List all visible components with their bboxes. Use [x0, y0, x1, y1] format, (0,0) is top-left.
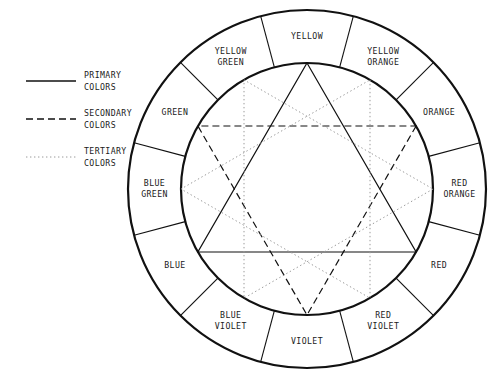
- segment-label-line-1: RED: [431, 260, 447, 270]
- segment-label-line-2: VIOLET: [367, 321, 399, 331]
- wheel-segment-red-violet[interactable]: REDVIOLET: [367, 310, 399, 330]
- segment-label-line-1: RED: [375, 310, 391, 320]
- segment-divider: [261, 311, 275, 362]
- color-wheel: YELLOWYELLOWORANGEORANGEREDORANGEREDREDV…: [128, 10, 486, 368]
- diagram-canvas: PRIMARYCOLORSSECONDARYCOLORSTERTIARYCOLO…: [0, 0, 497, 379]
- wheel-segment-blue-violet[interactable]: BLUEVIOLET: [215, 310, 247, 330]
- segment-label-line-1: VIOLET: [291, 336, 323, 346]
- segment-divider: [340, 16, 354, 67]
- legend-item-secondary: SECONDARYCOLORS: [26, 108, 132, 130]
- wheel-segment-red-orange[interactable]: REDORANGE: [444, 178, 476, 198]
- legend-label-line-2: COLORS: [84, 82, 116, 92]
- legend-label-line-2: COLORS: [84, 120, 116, 130]
- wheel-segment-blue-green[interactable]: BLUEGREEN: [141, 178, 168, 198]
- segment-label-line-1: YELLOW: [291, 31, 323, 41]
- wheel-segment-yellow-green[interactable]: YELLOWGREEN: [215, 46, 247, 66]
- segment-divider: [180, 278, 217, 315]
- legend-label-line-1: SECONDARY: [84, 108, 132, 118]
- legend-item-primary: PRIMARYCOLORS: [26, 70, 121, 92]
- segment-divider: [261, 16, 275, 67]
- wheel-segment-yellow[interactable]: YELLOW: [291, 31, 323, 41]
- wheel-segment-blue[interactable]: BLUE: [164, 260, 185, 270]
- segment-label-line-2: ORANGE: [367, 57, 399, 67]
- segment-divider: [134, 222, 185, 236]
- segment-divider: [396, 62, 433, 99]
- legend-label-line-2: COLORS: [84, 158, 116, 168]
- segment-label-line-1: YELLOW: [215, 46, 247, 56]
- segment-label-line-1: RED: [452, 178, 468, 188]
- segment-divider: [340, 311, 354, 362]
- segment-label-line-2: GREEN: [141, 189, 168, 199]
- wheel-segment-violet[interactable]: VIOLET: [291, 336, 323, 346]
- segment-label-line-2: VIOLET: [215, 321, 247, 331]
- segment-label-line-1: GREEN: [162, 107, 189, 117]
- segment-divider: [429, 143, 480, 157]
- segment-label-line-1: BLUE: [220, 310, 241, 320]
- wheel-segment-yellow-orange[interactable]: YELLOWORANGE: [367, 46, 399, 66]
- wheel-segment-orange[interactable]: ORANGE: [423, 107, 455, 117]
- legend: PRIMARYCOLORSSECONDARYCOLORSTERTIARYCOLO…: [26, 70, 132, 168]
- segment-label-line-1: BLUE: [144, 178, 165, 188]
- segment-divider: [134, 143, 185, 157]
- legend-label-line-1: PRIMARY: [84, 70, 121, 80]
- wheel-segment-red[interactable]: RED: [431, 260, 447, 270]
- secondary-triangle: [198, 126, 416, 315]
- segment-divider: [396, 278, 433, 315]
- inner-ring-circle: [181, 63, 433, 315]
- legend-item-tertiary: TERTIARYCOLORS: [26, 146, 127, 168]
- color-wheel-diagram: PRIMARYCOLORSSECONDARYCOLORSTERTIARYCOLO…: [0, 0, 497, 379]
- segment-label-line-2: ORANGE: [444, 189, 476, 199]
- segment-divider: [180, 62, 217, 99]
- segment-label-line-1: ORANGE: [423, 107, 455, 117]
- primary-triangle: [198, 63, 416, 252]
- segment-label-line-2: GREEN: [217, 57, 244, 67]
- segment-divider: [429, 222, 480, 236]
- tertiary-triangle-b: [244, 80, 433, 298]
- legend-label-line-1: TERTIARY: [84, 146, 127, 156]
- segment-label-line-1: YELLOW: [367, 46, 399, 56]
- tertiary-triangle-a: [181, 80, 370, 298]
- segment-label-line-1: BLUE: [164, 260, 185, 270]
- wheel-segment-green[interactable]: GREEN: [162, 107, 189, 117]
